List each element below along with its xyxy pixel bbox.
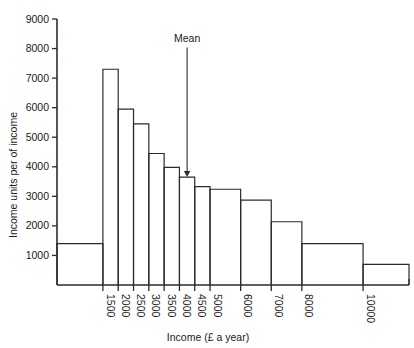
histogram-bar xyxy=(103,69,118,285)
x-tick-label: 5000 xyxy=(212,294,224,318)
x-axis: 1500200025003000350040004500500060007000… xyxy=(57,285,409,323)
x-tick-label: 2000 xyxy=(120,294,132,318)
x-tick-label: 3000 xyxy=(150,294,162,318)
y-tick-label: 9000 xyxy=(26,13,50,25)
x-tick-label: 8000 xyxy=(303,294,315,318)
mean-label: Mean xyxy=(174,32,200,44)
histogram-bar xyxy=(241,200,272,285)
x-tick-label: 4500 xyxy=(196,294,208,318)
x-tick-label: 3500 xyxy=(166,294,178,318)
y-tick-label: 6000 xyxy=(26,101,50,113)
x-tick-label: 2500 xyxy=(135,294,147,318)
y-tick-label: 5000 xyxy=(26,131,50,143)
histogram-bar xyxy=(134,124,149,285)
y-tick-label: 7000 xyxy=(26,72,50,84)
histogram-bars xyxy=(57,69,409,285)
chart-canvas: 100020003000400050006000700080009000 150… xyxy=(0,0,414,348)
x-axis-title: Income (£ a year) xyxy=(167,331,249,343)
x-tick-label: 4000 xyxy=(181,294,193,318)
y-tick-label: 8000 xyxy=(26,42,50,54)
y-axis-title: Income units per of income xyxy=(7,112,19,238)
x-tick-label: 10000 xyxy=(365,294,377,323)
y-tick-label: 1000 xyxy=(26,249,50,261)
histogram-bar xyxy=(118,109,133,285)
y-tick-label: 3000 xyxy=(26,190,50,202)
histogram-bar xyxy=(164,167,179,285)
y-axis: 100020003000400050006000700080009000 xyxy=(26,13,57,285)
x-tick-label: 7000 xyxy=(273,294,285,318)
histogram-bar xyxy=(195,187,210,285)
y-tick-label: 2000 xyxy=(26,219,50,231)
histogram-bar xyxy=(271,222,302,285)
y-tick-label: 4000 xyxy=(26,160,50,172)
histogram-bar xyxy=(363,264,409,285)
histogram-bar xyxy=(179,177,194,285)
mean-annotation: Mean xyxy=(174,32,200,178)
x-tick-label: 6000 xyxy=(242,294,254,318)
histogram-bar xyxy=(57,244,103,285)
histogram-bar xyxy=(149,153,164,285)
mean-arrow-head xyxy=(184,171,190,177)
income-distribution-chart: 100020003000400050006000700080009000 150… xyxy=(0,0,414,348)
histogram-bar xyxy=(302,244,363,285)
histogram-bar xyxy=(210,189,241,285)
x-tick-label: 1500 xyxy=(105,294,117,318)
